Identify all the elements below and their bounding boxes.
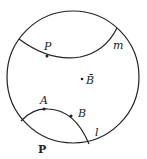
label-m: m bbox=[113, 39, 123, 52]
label-l: l bbox=[95, 126, 99, 139]
label-p: P bbox=[43, 40, 52, 53]
point-a bbox=[43, 108, 46, 111]
disk-boundary bbox=[7, 11, 139, 143]
poincare-disk-diagram: P m B̄ A B l P bbox=[0, 0, 147, 159]
line-m bbox=[19, 28, 117, 58]
point-b-bar bbox=[81, 78, 84, 81]
label-a: A bbox=[39, 94, 48, 107]
label-b-bar: B̄ bbox=[85, 74, 94, 87]
point-p bbox=[46, 55, 49, 58]
label-b: B bbox=[77, 107, 86, 120]
label-region-p: P bbox=[38, 143, 46, 156]
point-b bbox=[70, 115, 73, 118]
